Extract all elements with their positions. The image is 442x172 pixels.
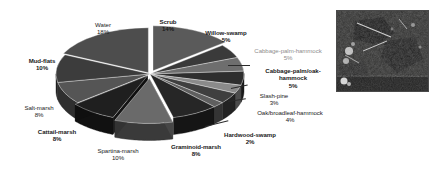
label-spartina-marsh-pct: 10% [86,154,150,162]
label-water: Water 18% [79,13,127,43]
label-graminoid-marsh-pct: 8% [163,150,229,158]
label-cattail-marsh-pct: 8% [26,135,88,143]
label-salt-marsh: Salt-marsh 8% [12,96,66,126]
label-graminoid-marsh: Graminoid-marsh 8% [163,135,229,165]
label-scrub-text: Scrub [159,18,176,25]
aerial-image [337,11,428,91]
label-spartina-marsh: Spartina-marsh 10% [86,139,150,169]
label-salt-marsh-text: Salt-marsh [25,104,54,111]
label-mud-flats-pct: 10% [14,64,70,72]
label-mud-flats-text: Mud-flats [29,57,56,64]
label-cabbage-palm-hammock-text: Cabbage-palm-hammock [254,47,321,54]
label-slash-pine-text: Slash-pine [260,92,288,99]
label-water-pct: 18% [79,28,127,36]
label-salt-marsh-pct: 8% [12,111,66,119]
label-mud-flats: Mud-flats 10% [14,49,70,79]
aerial-satellite-thumbnail[interactable] [336,10,429,92]
label-scrub: Scrub 14% [146,10,190,40]
label-oak-broadleaf-hammock-text: Oak/broadleaf-hammock [257,109,323,116]
label-willow-swamp-text: Willow-swamp [205,29,246,36]
label-water-text: Water [95,21,111,28]
label-cattail-marsh-text: Cattail-marsh [38,128,76,135]
figure-canvas: Water 18% Scrub 14% Willow-swamp 5% Cabb… [0,0,442,172]
label-hardwood-swamp-text: Hardwood-swamp [224,131,276,138]
label-scrub-pct: 14% [146,25,190,33]
label-graminoid-marsh-text: Graminoid-marsh [171,143,221,150]
label-cabbage-palm-oak-hammock-text: Cabbage-palm/oak- hammock [265,67,320,82]
label-spartina-marsh-text: Spartina-marsh [98,147,139,154]
